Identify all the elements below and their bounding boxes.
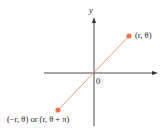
x-axis-arrow-icon [152, 71, 158, 75]
y-axis-label: y [88, 5, 93, 15]
point-label-r-theta: (r, θ) [135, 30, 152, 40]
point-r-theta [126, 33, 131, 38]
origin-label: 0 [96, 76, 100, 86]
polar-diagram: y 0 (r, θ) (−r, θ) or (r, θ + π) [0, 0, 168, 136]
y-axis-arrow-icon [92, 17, 96, 23]
point-label-neg-r-theta: (−r, θ) or (r, θ + π) [7, 114, 70, 124]
point-neg-r-theta [55, 107, 60, 112]
